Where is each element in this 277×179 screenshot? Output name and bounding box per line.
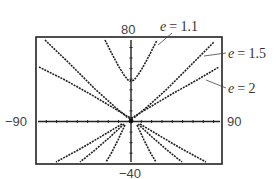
svg-text:e= 1.5: e= 1.5 xyxy=(228,46,266,61)
x-min-label: −90 xyxy=(5,114,27,129)
series-e-2 xyxy=(39,67,219,162)
y-max-label: 80 xyxy=(121,22,135,37)
svg-text:e= 1.1: e= 1.1 xyxy=(160,19,198,34)
annotation-e-1-1: e= 1.1 xyxy=(158,19,198,45)
annotation-e-2: e= 2 xyxy=(206,80,256,96)
window-frame xyxy=(36,37,222,164)
y-min-label: −40 xyxy=(119,166,141,179)
x-max-label: 90 xyxy=(227,114,241,129)
svg-text:e= 2: e= 2 xyxy=(228,81,256,96)
graph: 80 −40 −90 90 e= 1.1 e= 1.5 e= 2 xyxy=(0,0,277,179)
annotation-e-1-5: e= 1.5 xyxy=(204,46,266,61)
origin-point xyxy=(129,119,134,124)
